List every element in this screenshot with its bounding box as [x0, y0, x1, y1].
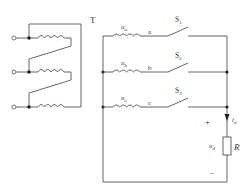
- transformer: T: [12, 15, 96, 109]
- circuit-diagram: T ua a S1 ub: [0, 0, 250, 189]
- resistor-label: R: [233, 142, 240, 152]
- coil-icon: [38, 36, 64, 39]
- coil-icon: [38, 70, 64, 73]
- resistor: [223, 137, 231, 155]
- phase-b-branch: ub b S2: [103, 51, 229, 74]
- switch-s2-blade: [168, 63, 188, 72]
- node-c-label: c: [148, 99, 151, 107]
- transformer-diagonal-1: [29, 46, 71, 59]
- voltage-uc-label: uc: [121, 94, 128, 103]
- transformer-top-line: [29, 24, 81, 107]
- switch-s1-blade: [168, 27, 188, 36]
- terminal-icon: [12, 105, 16, 109]
- switch-s3-label: S3: [175, 86, 182, 96]
- junction-dot: [27, 105, 31, 109]
- voltage-ua-label: ua: [121, 23, 128, 32]
- coil-icon: [113, 105, 140, 107]
- transformer-winding-2: [12, 70, 71, 81]
- phase-a-branch: ua a S1: [113, 15, 188, 36]
- node-b-label: b: [148, 64, 152, 72]
- plus-sign: +: [205, 117, 210, 127]
- switch-s3-blade: [168, 98, 188, 107]
- switch-s2-label: S2: [175, 51, 182, 61]
- junction-dot: [27, 70, 31, 74]
- transformer-winding-1: [12, 36, 71, 47]
- terminal-icon: [12, 36, 16, 40]
- coil-icon: [113, 70, 140, 72]
- junction-dot: [225, 70, 228, 73]
- coil-icon: [113, 34, 140, 36]
- minus-sign: −: [210, 169, 215, 178]
- secondary-circuit: ua a S1 ub b S2: [101, 15, 240, 182]
- transformer-label: T: [90, 15, 96, 25]
- junction-dot: [27, 36, 31, 40]
- current-arrow-icon: [225, 114, 230, 121]
- transformer-winding-3: [12, 105, 64, 110]
- transformer-diagonal-2: [29, 80, 71, 93]
- coil-icon: [38, 105, 64, 108]
- voltage-ud-label: ud: [209, 142, 216, 151]
- terminal-icon: [12, 70, 16, 74]
- load: + − id ud R: [205, 114, 240, 178]
- current-id-label: id: [232, 116, 237, 125]
- junction-dot: [225, 105, 228, 108]
- phase-c-branch: uc c S3: [103, 86, 229, 109]
- voltage-ub-label: ub: [121, 59, 128, 68]
- left-bus: [103, 36, 227, 182]
- node-a-label: a: [148, 28, 152, 36]
- switch-s1-label: S1: [175, 15, 182, 25]
